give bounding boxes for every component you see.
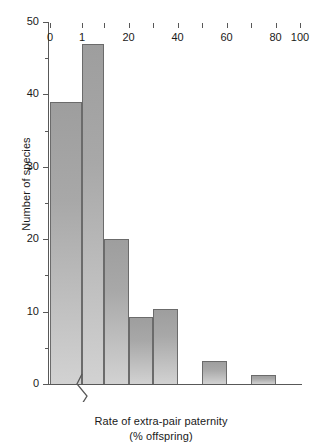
x-tick-10 — [104, 23, 105, 28]
x-tick-1 — [82, 23, 83, 28]
plot-area: 0 10 20 30 40 50 — [48, 22, 302, 384]
y-tick-40: 40 — [43, 94, 48, 95]
bar-30-40 — [153, 309, 178, 384]
x-tick-50 — [202, 23, 203, 28]
x-tick-70 — [251, 23, 252, 28]
x-tick-label-80: 80 — [269, 31, 281, 43]
bar-50-60 — [202, 361, 227, 384]
histogram-figure: Number of species 0 10 20 30 40 50 — [0, 0, 322, 448]
x-tick-30 — [153, 23, 154, 28]
y-axis-line — [48, 22, 49, 384]
y-tick-50: 50 — [43, 22, 48, 23]
x-tick-label-60: 60 — [220, 31, 232, 43]
x-tick-label-0: 0 — [47, 31, 53, 43]
x-axis-line — [48, 384, 302, 385]
x-axis-label-units: (% offspring) — [0, 430, 322, 442]
x-tick-label-100: 100 — [291, 31, 309, 43]
y-tick-30: 30 — [43, 167, 48, 168]
bar-20-30 — [129, 317, 154, 384]
y-tick-0: 0 — [43, 384, 48, 385]
x-tick-0 — [50, 23, 51, 28]
bar-10-20 — [104, 239, 129, 384]
x-tick-20 — [129, 23, 130, 28]
y-tick-minor-25 — [45, 203, 48, 204]
y-tick-10: 10 — [43, 312, 48, 313]
x-tick-80 — [276, 23, 277, 28]
y-tick-minor-5 — [45, 348, 48, 349]
x-tick-100 — [300, 23, 301, 28]
y-tick-minor-35 — [45, 131, 48, 132]
y-tick-minor-45 — [45, 58, 48, 59]
bar-0-1 — [50, 102, 82, 384]
y-tick-minor-15 — [45, 275, 48, 276]
x-tick-label-1: 1 — [79, 31, 85, 43]
y-tick-20: 20 — [43, 239, 48, 240]
bar-70-80 — [251, 375, 276, 384]
x-tick-40 — [178, 23, 179, 28]
x-tick-label-20: 20 — [122, 31, 134, 43]
x-axis-label: Rate of extra-pair paternity — [0, 415, 322, 427]
bar-1-10 — [82, 44, 104, 384]
x-tick-60 — [227, 23, 228, 28]
x-tick-label-40: 40 — [171, 31, 183, 43]
